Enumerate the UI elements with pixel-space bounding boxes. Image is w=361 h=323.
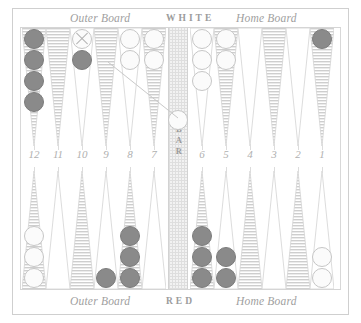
point-17[interactable] xyxy=(118,171,142,289)
backgammon-board-diagram: Outer Board WHITE Home Board Outer Board… xyxy=(0,0,361,323)
point-4[interactable] xyxy=(238,28,262,146)
bottom-outer-board-label: Outer Board xyxy=(70,295,130,307)
point-triangle-15 xyxy=(70,171,94,289)
checker-white-point-13[interactable] xyxy=(24,247,44,267)
bottom-label-row: Outer Board RED Home Board xyxy=(18,293,343,309)
checker-red-point-19[interactable] xyxy=(192,268,212,288)
point-tick xyxy=(226,144,227,150)
point-triangle-14 xyxy=(46,171,70,289)
point-19[interactable] xyxy=(190,171,214,289)
point-6[interactable] xyxy=(190,28,214,146)
checker-white-point-13[interactable] xyxy=(24,268,44,288)
point-2[interactable] xyxy=(286,28,310,146)
point-tick xyxy=(298,144,299,150)
checker-red-point-1[interactable] xyxy=(312,29,332,49)
bottom-player-label: RED xyxy=(166,296,195,306)
point-21[interactable] xyxy=(238,171,262,289)
checker-red-point-10[interactable] xyxy=(72,50,92,70)
point-number-row: 121110987654321 xyxy=(20,146,341,171)
point-11[interactable] xyxy=(46,28,70,146)
checker-white-point-24[interactable] xyxy=(312,268,332,288)
point-triangle-4 xyxy=(238,28,262,146)
top-home-board-label: Home Board xyxy=(236,12,297,24)
checker-red-point-12[interactable] xyxy=(24,92,44,112)
point-9[interactable] xyxy=(94,28,118,146)
point-tick xyxy=(106,144,107,150)
point-tick xyxy=(250,144,251,150)
bar-label-char: A xyxy=(169,135,189,146)
point-23[interactable] xyxy=(286,171,310,289)
checker-red-point-12[interactable] xyxy=(24,29,44,49)
checker-white-point-10[interactable] xyxy=(72,29,92,49)
point-5[interactable] xyxy=(214,28,238,146)
point-tick xyxy=(202,144,203,150)
checker-white-point-8[interactable] xyxy=(120,29,140,49)
bar-checker-white[interactable] xyxy=(168,110,188,130)
checker-white-point-6[interactable] xyxy=(192,71,212,91)
point-triangle-11 xyxy=(46,28,70,146)
checker-red-point-17[interactable] xyxy=(120,268,140,288)
bottom-home-board-label: Home Board xyxy=(236,295,297,307)
point-tick xyxy=(250,167,251,173)
point-7[interactable] xyxy=(142,28,166,146)
point-tick xyxy=(274,167,275,173)
checker-white-point-8[interactable] xyxy=(120,50,140,70)
checker-white-point-5[interactable] xyxy=(216,29,236,49)
point-10[interactable] xyxy=(70,28,94,146)
point-tick xyxy=(202,167,203,173)
checker-white-point-6[interactable] xyxy=(192,29,212,49)
top-player-label: WHITE xyxy=(166,13,214,23)
point-15[interactable] xyxy=(70,171,94,289)
point-22[interactable] xyxy=(262,171,286,289)
checker-white-point-5[interactable] xyxy=(216,50,236,70)
checker-white-point-7[interactable] xyxy=(144,29,164,49)
point-13[interactable] xyxy=(22,171,46,289)
point-triangle-23 xyxy=(286,171,310,289)
checker-red-point-20[interactable] xyxy=(216,247,236,267)
point-triangle-9 xyxy=(94,28,118,146)
checker-red-point-19[interactable] xyxy=(192,226,212,246)
point-8[interactable] xyxy=(118,28,142,146)
point-tick xyxy=(274,144,275,150)
point-24[interactable] xyxy=(310,171,334,289)
point-tick xyxy=(154,144,155,150)
quadrant-bottom-left xyxy=(20,171,168,289)
point-triangle-18 xyxy=(142,171,166,289)
point-16[interactable] xyxy=(94,171,118,289)
checker-red-point-12[interactable] xyxy=(24,71,44,91)
checker-white-point-7[interactable] xyxy=(144,50,164,70)
quadrant-bottom-right xyxy=(188,171,336,289)
checker-white-point-13[interactable] xyxy=(24,226,44,246)
point-tick xyxy=(154,167,155,173)
point-tick xyxy=(130,167,131,173)
quadrant-top-left xyxy=(20,28,168,146)
point-1[interactable] xyxy=(310,28,334,146)
checker-red-point-20[interactable] xyxy=(216,268,236,288)
quadrant-top-right xyxy=(188,28,336,146)
point-18[interactable] xyxy=(142,171,166,289)
point-tick xyxy=(58,167,59,173)
point-tick xyxy=(322,144,323,150)
point-12[interactable] xyxy=(22,28,46,146)
point-triangle-2 xyxy=(286,28,310,146)
checker-red-point-19[interactable] xyxy=(192,247,212,267)
point-3[interactable] xyxy=(262,28,286,146)
point-tick xyxy=(82,167,83,173)
point-tick xyxy=(34,144,35,150)
point-triangle-3 xyxy=(262,28,286,146)
point-tick xyxy=(82,144,83,150)
point-20[interactable] xyxy=(214,171,238,289)
point-triangle-21 xyxy=(238,171,262,289)
point-triangle-22 xyxy=(262,171,286,289)
point-tick xyxy=(34,167,35,173)
checker-white-point-24[interactable] xyxy=(312,247,332,267)
checker-white-point-6[interactable] xyxy=(192,50,212,70)
top-label-row: Outer Board WHITE Home Board xyxy=(18,10,343,26)
point-tick xyxy=(226,167,227,173)
checker-red-point-17[interactable] xyxy=(120,226,140,246)
checker-red-point-17[interactable] xyxy=(120,247,140,267)
point-14[interactable] xyxy=(46,171,70,289)
checker-red-point-12[interactable] xyxy=(24,50,44,70)
checker-red-point-16[interactable] xyxy=(96,268,116,288)
point-tick xyxy=(130,144,131,150)
